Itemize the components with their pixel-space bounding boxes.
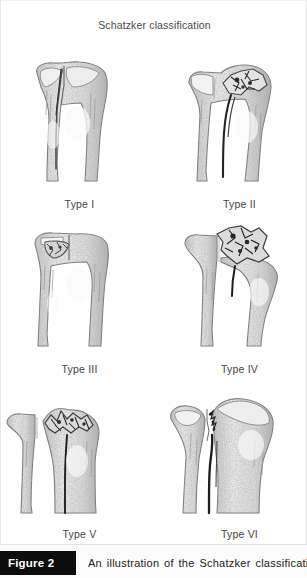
illustration-cell-type-3: Type III [1, 214, 154, 379]
figure-caption-bar: Figure 2 An illustration of the Schatzke… [0, 544, 307, 578]
tibia-illustration-type-1 [1, 49, 154, 189]
figure-caption-text: An illustration of the Schatzker classif… [88, 551, 305, 575]
figure-container: Schatzker classification [0, 0, 307, 578]
illustration-grid: Type I [1, 49, 307, 544]
illustration-cell-type-5: Type V [1, 379, 154, 544]
illustration-label: Type IV [155, 363, 307, 375]
tibia-illustration-type-2 [155, 49, 307, 189]
illustration-label: Type V [1, 528, 154, 540]
tibia-illustration-type-6 [155, 379, 307, 519]
illustration-cell-type-2: Type II [155, 49, 307, 214]
illustration-label: Type III [1, 363, 154, 375]
tibia-illustration-type-5 [1, 379, 154, 519]
illustration-label: Type VI [155, 528, 307, 540]
tibia-illustration-type-3 [1, 214, 154, 354]
illustration-row: Type I [1, 49, 307, 214]
illustration-label: Type II [155, 198, 307, 210]
illustration-row: Type III [1, 214, 307, 379]
illustration-cell-type-1: Type I [1, 49, 154, 214]
illustration-cell-type-6: Type VI [155, 379, 307, 544]
illustration-row: Type V [1, 379, 307, 544]
figure-number-badge: Figure 2 [0, 551, 76, 575]
illustration-cell-type-4: Type IV [155, 214, 307, 379]
illustration-panel: Schatzker classification [0, 0, 307, 545]
figure-title: Schatzker classification [1, 19, 307, 31]
tibia-illustration-type-4 [155, 214, 307, 354]
illustration-label: Type I [1, 198, 154, 210]
